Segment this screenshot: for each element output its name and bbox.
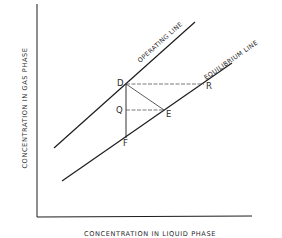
line-D-E [126,84,164,110]
point-label-R: R [206,81,212,91]
point-label-E: E [166,109,171,119]
diagram-canvas: D R Q E F OPERATING LINE EQUILIBRIUM LIN… [0,0,282,238]
operating-line [54,22,195,148]
x-axis-label: CONCENTRATION IN LIQUID PHASE [84,230,216,238]
point-label-Q: Q [116,105,123,115]
equilibrium-line-label: EQUILIBRIUM LINE [203,39,259,81]
y-axis-label: CONCENTRATION IN GAS PHASE [21,47,29,168]
x-axis [37,216,252,217]
point-label-D: D [117,78,124,88]
point-label-F: F [123,138,128,148]
operating-line-label: OPERATING LINE [136,20,184,64]
